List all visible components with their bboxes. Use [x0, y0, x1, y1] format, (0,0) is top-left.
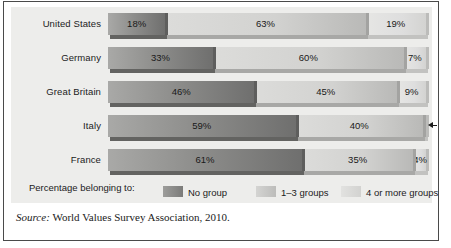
- bar-side: [426, 13, 429, 35]
- legend-label: 4 or more groups: [366, 187, 438, 198]
- bar-segment: 45%: [254, 81, 397, 103]
- bar-segment: 19%: [366, 13, 426, 35]
- legend-item: 4 or more groups: [341, 182, 438, 195]
- bar-segment: 63%: [165, 13, 365, 35]
- segment-value-label: 33%: [108, 47, 213, 69]
- bar-bevel: [215, 69, 406, 73]
- segment-value-label: 63%: [165, 13, 365, 35]
- chart-row: Great Britain46%45%9%: [11, 79, 432, 113]
- bar-bevel: [110, 35, 167, 39]
- segment-value-label: 19%: [366, 13, 426, 35]
- stacked-bar: 61%35%4%: [108, 149, 426, 171]
- segment-value-label: 40%: [296, 115, 423, 137]
- segment-value-label: 45%: [254, 81, 397, 103]
- bar-bevel: [415, 171, 428, 175]
- bar-side: [397, 81, 400, 103]
- bar-side: [426, 47, 429, 69]
- legend-item: No group: [163, 182, 227, 195]
- legend-swatch: [163, 186, 183, 197]
- bar-bevel: [167, 35, 367, 39]
- row-label: Great Britain: [11, 86, 101, 97]
- chart-legend: Percentage belonging to: No group1–3 gro…: [11, 179, 432, 199]
- row-label: United States: [11, 18, 101, 29]
- bar-segment: 33%: [108, 47, 213, 69]
- figure-frame: United States18%63%19%Germany33%60%7%Gre…: [3, 1, 439, 241]
- chart-row: Italy59%40%1%: [11, 113, 432, 147]
- stacked-bar: 33%60%7%: [108, 47, 426, 69]
- legend-swatch: [256, 186, 276, 197]
- bar-side: [213, 47, 216, 69]
- source-note: Source: World Values Survey Association,…: [16, 211, 230, 223]
- segment-value-label: 59%: [108, 115, 296, 137]
- row-label: France: [11, 154, 101, 165]
- bar-side: [413, 149, 416, 171]
- leader-line: [433, 125, 437, 126]
- bar-bevel: [110, 103, 256, 107]
- bar-segment: 35%: [302, 149, 413, 171]
- legend-title: Percentage belonging to:: [29, 182, 135, 193]
- legend-label: 1–3 groups: [281, 187, 329, 198]
- bar-segment: 61%: [108, 149, 302, 171]
- legend-label: No group: [188, 187, 227, 198]
- chart-row: France61%35%4%: [11, 147, 432, 181]
- bar-bevel: [368, 35, 428, 39]
- bar-segment: 9%: [397, 81, 426, 103]
- row-label: Germany: [11, 52, 101, 63]
- chart-row: Germany33%60%7%: [11, 45, 432, 79]
- bar-side: [302, 149, 305, 171]
- bar-bevel: [399, 103, 428, 107]
- chart-panel: United States18%63%19%Germany33%60%7%Gre…: [11, 7, 432, 203]
- segment-value-label: 60%: [213, 47, 404, 69]
- source-prefix: Source:: [16, 211, 50, 223]
- stacked-bar: 46%45%9%: [108, 81, 426, 103]
- bar-segment: 18%: [108, 13, 165, 35]
- segment-value-label: 46%: [108, 81, 254, 103]
- bar-bevel: [110, 137, 298, 141]
- bar-bevel: [304, 171, 415, 175]
- chart-row: United States18%63%19%: [11, 11, 432, 45]
- bar-side: [404, 47, 407, 69]
- segment-value-label: 35%: [302, 149, 413, 171]
- bar-bevel: [298, 137, 425, 141]
- stacked-bar: 18%63%19%: [108, 13, 426, 35]
- stacked-bar: 59%40%1%: [108, 115, 426, 137]
- bar-segment: 46%: [108, 81, 254, 103]
- segment-value-label: 7%: [404, 47, 426, 69]
- source-text: World Values Survey Association, 2010.: [52, 211, 229, 223]
- value-callout: 1%: [428, 115, 439, 137]
- callout-value-label: 1%: [438, 120, 439, 131]
- segment-value-label: 61%: [108, 149, 302, 171]
- bar-side: [296, 115, 299, 137]
- bar-side: [254, 81, 257, 103]
- bar-bevel: [110, 171, 304, 175]
- legend-swatch: [341, 186, 361, 197]
- bar-bevel: [256, 103, 399, 107]
- legend-item: 1–3 groups: [256, 182, 329, 195]
- bar-segment: 7%: [404, 47, 426, 69]
- bar-bevel: [110, 69, 215, 73]
- bar-side: [165, 13, 168, 35]
- bar-bevel: [425, 137, 428, 141]
- bar-side: [366, 13, 369, 35]
- bar-side: [426, 81, 429, 103]
- bar-segment: 59%: [108, 115, 296, 137]
- row-label: Italy: [11, 120, 101, 131]
- segment-value-label: 9%: [397, 81, 426, 103]
- bar-segment: 40%: [296, 115, 423, 137]
- segment-value-label: 18%: [108, 13, 165, 35]
- bar-side: [423, 115, 426, 137]
- bar-bevel: [406, 69, 428, 73]
- bar-segment: 60%: [213, 47, 404, 69]
